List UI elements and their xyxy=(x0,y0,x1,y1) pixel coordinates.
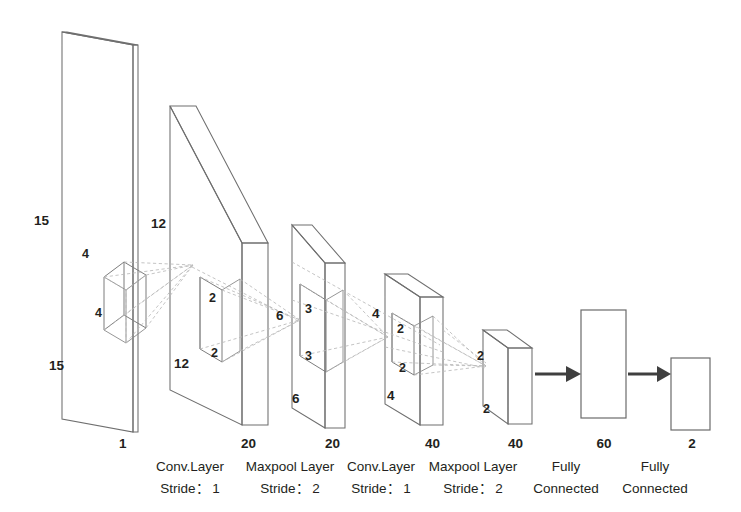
label-conv2-height: 4 xyxy=(372,306,380,321)
caption-maxpool2: Maxpool Layer Stride： 2 xyxy=(429,459,518,496)
label-conv2-depth: 40 xyxy=(425,436,440,451)
label-fc1-units: 60 xyxy=(596,436,611,451)
caption-maxpool1: Maxpool Layer Stride： 2 xyxy=(246,459,335,496)
label-input-height: 15 xyxy=(34,213,50,228)
label-input-patch-height: 4 xyxy=(82,247,89,261)
label-maxpool1-width: 6 xyxy=(292,391,300,406)
caption-maxpool1-name: Maxpool Layer xyxy=(246,459,335,474)
caption-conv2-stride: Stride： 1 xyxy=(351,481,411,496)
label-maxpool1-patch-width: 3 xyxy=(305,349,312,363)
input-receptive-patch xyxy=(104,262,146,343)
label-conv1-patch-height: 2 xyxy=(209,291,216,305)
label-conv1-height: 12 xyxy=(151,216,166,231)
caption-maxpool2-name: Maxpool Layer xyxy=(429,459,518,474)
label-conv2-patch-height: 2 xyxy=(397,322,404,336)
caption-maxpool2-stride: Stride： 2 xyxy=(443,481,503,496)
label-fc2-units: 2 xyxy=(688,436,696,451)
label-conv2-width: 4 xyxy=(387,388,395,403)
projection-conv1-to-maxpool1 xyxy=(192,267,300,362)
label-maxpool1-height: 6 xyxy=(276,308,284,323)
caption-conv1-stride: Stride： 1 xyxy=(160,481,220,496)
conv1-receptive-patch xyxy=(200,277,240,362)
label-conv1-depth: 20 xyxy=(241,436,256,451)
label-conv1-width: 12 xyxy=(174,356,189,371)
caption-fc2-line2: Connected xyxy=(622,481,687,496)
label-conv1-patch-width: 2 xyxy=(211,346,218,360)
caption-fc1: Fully Connected xyxy=(533,459,598,496)
caption-fc2: Fully Connected xyxy=(622,459,687,496)
label-input-patch-width: 4 xyxy=(95,306,102,320)
label-maxpool1-patch-height: 3 xyxy=(305,302,312,316)
caption-conv2-name: Conv.Layer xyxy=(347,459,416,474)
label-input-depth: 1 xyxy=(119,436,127,451)
label-input-width: 15 xyxy=(49,358,65,373)
layer-conv1-volume xyxy=(170,106,268,425)
label-maxpool1-depth: 20 xyxy=(325,436,340,451)
caption-conv1: Conv.Layer Stride： 1 xyxy=(156,459,225,496)
caption-fc1-line1: Fully xyxy=(552,459,581,474)
layer-input-volume xyxy=(62,32,138,432)
arrow-maxpool2-to-fc1 xyxy=(535,366,581,382)
caption-maxpool1-stride: Stride： 2 xyxy=(260,481,320,496)
caption-fc1-line2: Connected xyxy=(533,481,598,496)
layer-fc1-box xyxy=(581,310,626,418)
caption-conv1-name: Conv.Layer xyxy=(156,459,225,474)
layer-fc2-box xyxy=(671,358,710,430)
caption-fc2-line1: Fully xyxy=(641,459,670,474)
projection-input-to-conv1 xyxy=(104,262,193,343)
label-conv2-patch-width: 2 xyxy=(399,361,406,375)
label-maxpool2-depth: 40 xyxy=(508,436,523,451)
caption-conv2: Conv.Layer Stride： 1 xyxy=(347,459,416,496)
label-maxpool2-width: 2 xyxy=(483,402,490,416)
label-maxpool2-height: 2 xyxy=(477,349,484,363)
arrow-fc1-to-fc2 xyxy=(628,366,671,382)
layer-maxpool2-volume xyxy=(483,330,532,424)
cnn-architecture-diagram: 15 15 1 4 4 12 12 20 2 2 6 6 20 3 3 4 4 … xyxy=(0,0,741,512)
